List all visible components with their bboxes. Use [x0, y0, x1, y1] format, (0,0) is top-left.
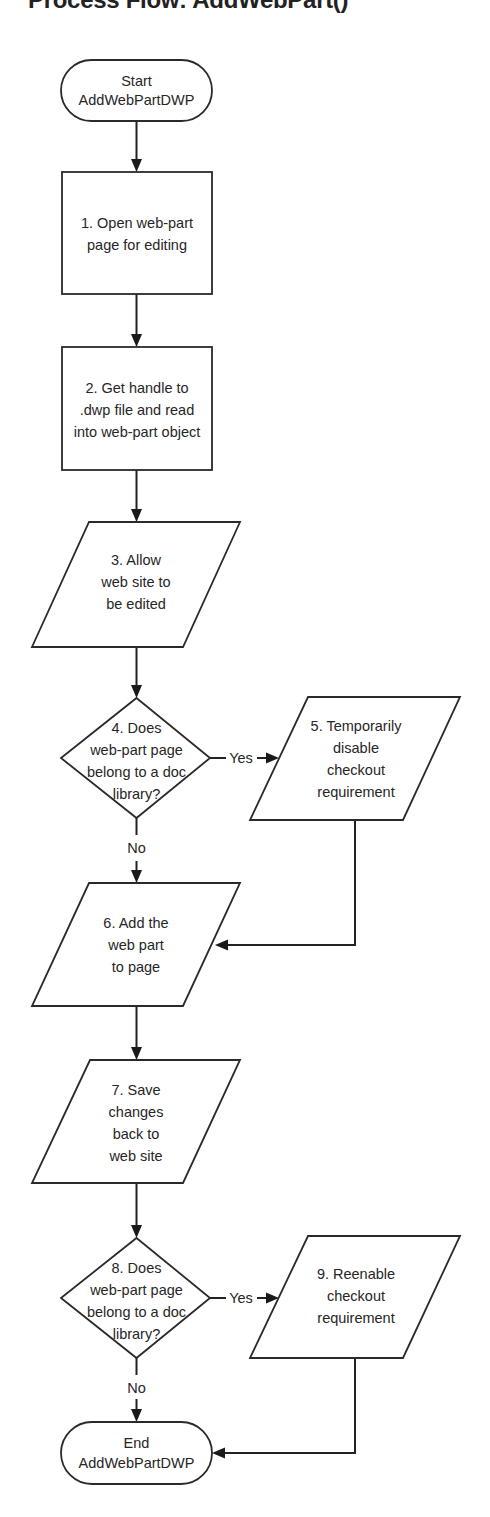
- arrowhead-icon: [131, 1409, 142, 1422]
- node-step5-line-3: checkout: [327, 762, 385, 778]
- node-step2-line-1: 2. Get handle to: [85, 380, 188, 396]
- node-step2-line-2: .dwp file and read: [80, 402, 194, 418]
- node-step8-line-4: library?: [113, 1326, 161, 1342]
- arrowhead-icon: [131, 1225, 142, 1238]
- node-step6-line-2: web part: [107, 937, 164, 953]
- process-shape: [62, 172, 212, 294]
- edge-label-step4-no: No: [127, 840, 146, 856]
- node-step2: 2. Get handle to .dwp file and read into…: [62, 347, 212, 470]
- node-step8-line-2: web-part page: [89, 1282, 183, 1298]
- node-step6: 6. Add the web part to page: [32, 883, 240, 1006]
- node-end-line-1: End: [124, 1435, 150, 1451]
- node-step5: 5. Temporarily disable checkout requirem…: [250, 697, 460, 820]
- arrowhead-icon: [131, 509, 142, 522]
- flowchart-canvas: Yes No Yes No Start AddWebPartDWP 1. Ope…: [0, 0, 490, 1517]
- node-step8-line-3: belong to a doc: [87, 1304, 186, 1320]
- arrowhead-icon: [215, 940, 228, 951]
- arrowhead-icon: [212, 1448, 225, 1459]
- node-step1-line-2: page for editing: [87, 237, 187, 253]
- node-step5-line-1: 5. Temporarily: [311, 718, 403, 734]
- arrowhead-icon: [131, 685, 142, 698]
- node-start: Start AddWebPartDWP: [61, 60, 212, 121]
- node-step1: 1. Open web-part page for editing: [62, 172, 212, 294]
- arrowhead-icon: [131, 870, 142, 883]
- node-step7-line-1: 7. Save: [111, 1082, 160, 1098]
- node-step7-line-3: back to: [113, 1126, 160, 1142]
- node-step3-line-1: 3. Allow: [111, 552, 161, 568]
- node-step9-line-1: 9. Reenable: [317, 1266, 395, 1282]
- node-step4-line-2: web-part page: [89, 742, 183, 758]
- node-step9-line-2: checkout: [327, 1288, 385, 1304]
- node-step7-line-2: changes: [109, 1104, 164, 1120]
- io-shape: [250, 697, 460, 820]
- node-end: End AddWebPartDWP: [61, 1422, 212, 1484]
- node-step4: 4. Does web-part page belong to a doc li…: [61, 698, 210, 818]
- arrowhead-icon: [131, 159, 142, 172]
- node-step5-line-2: disable: [333, 740, 379, 756]
- node-step8: 8. Does web-part page belong to a doc li…: [61, 1238, 210, 1358]
- node-step7-line-4: web site: [108, 1148, 162, 1164]
- edge-step9-end: [224, 1358, 355, 1453]
- io-shape: [32, 1060, 240, 1183]
- node-step3-line-3: be edited: [106, 596, 166, 612]
- node-step5-line-4: requirement: [317, 784, 394, 800]
- node-step1-line-1: 1. Open web-part: [81, 215, 193, 231]
- node-step7: 7. Save changes back to web site: [32, 1060, 240, 1183]
- node-step2-line-3: into web-part object: [74, 424, 201, 440]
- diagram-title: Process Flow: AddWebPart(): [28, 0, 348, 14]
- node-step4-line-3: belong to a doc: [87, 764, 186, 780]
- node-start-line-1: Start: [121, 73, 152, 89]
- flowchart: Process Flow: AddWebPart(): [0, 0, 490, 1517]
- node-step4-line-4: library?: [113, 786, 161, 802]
- edge-step5-step6: [227, 820, 355, 945]
- terminal-shape: [61, 1422, 212, 1484]
- node-step4-line-1: 4. Does: [112, 720, 162, 736]
- node-step8-line-1: 8. Does: [112, 1260, 162, 1276]
- node-step6-line-3: to page: [112, 959, 160, 975]
- node-step3: 3. Allow web site to be edited: [32, 522, 240, 647]
- node-step6-line-1: 6. Add the: [103, 915, 168, 931]
- edge-label-step8-yes: Yes: [229, 1290, 253, 1306]
- terminal-shape: [61, 60, 212, 121]
- node-step3-line-2: web site to: [100, 574, 170, 590]
- node-start-line-2: AddWebPartDWP: [79, 92, 195, 108]
- node-step9: 9. Reenable checkout requirement: [250, 1236, 460, 1358]
- node-step9-line-3: requirement: [317, 1310, 394, 1326]
- arrowhead-icon: [131, 1047, 142, 1060]
- edge-label-step4-yes: Yes: [229, 750, 253, 766]
- edge-label-step8-no: No: [127, 1380, 146, 1396]
- node-end-line-2: AddWebPartDWP: [79, 1455, 195, 1471]
- arrowhead-icon: [131, 334, 142, 347]
